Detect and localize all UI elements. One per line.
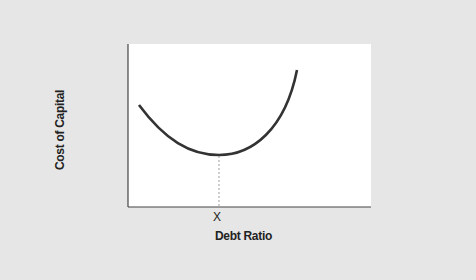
x-tick-label: X	[213, 210, 221, 224]
x-axis-label: Debt Ratio	[215, 229, 272, 243]
y-axis-label: Cost of Capital	[53, 60, 67, 200]
cost-of-capital-curve	[139, 70, 297, 155]
